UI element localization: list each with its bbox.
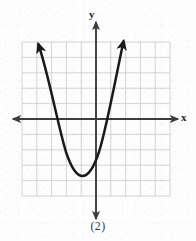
- coordinate-plane-svg: [0, 0, 196, 241]
- y-axis-label: y: [89, 9, 95, 20]
- figure-caption: (2): [0, 219, 196, 234]
- x-axis-label: x: [181, 112, 187, 123]
- parabola-figure: y x (2): [0, 0, 196, 241]
